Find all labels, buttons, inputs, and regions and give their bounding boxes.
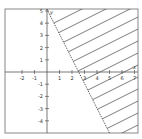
x-tick-label: -2 [20,75,25,81]
x-tick-label: 2 [70,75,73,81]
y-tick-label: 5 [40,8,43,14]
x-tick-label: 3 [83,75,86,81]
inequality-graph: -2 -1 1 2 3 4 5 6 7 5 4 3 2 1 -1 -2 -3 -… [0,0,142,139]
y-tick-label: -1 [38,81,43,87]
x-tick-label: 1 [58,75,61,81]
y-tick-label: -4 [38,118,43,124]
y-tick-label: -3 [38,106,43,112]
y-tick-label: 4 [40,20,43,26]
y-tick-label: 1 [40,57,43,63]
y-tick-label: 3 [40,32,43,38]
y-tick-label: -2 [38,93,43,99]
x-tick-label: 6 [120,75,123,81]
x-tick-label: -1 [32,75,37,81]
y-tick-label: 2 [40,45,43,51]
x-tick-label: 4 [95,75,98,81]
x-tick-label: 5 [108,75,111,81]
x-axis-label: x [132,64,136,70]
x-tick-label: 7 [133,75,136,81]
plot-frame [5,9,138,133]
